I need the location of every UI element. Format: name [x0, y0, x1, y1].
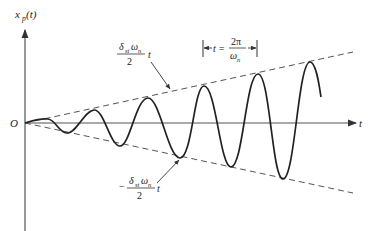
svg-text:st: st — [135, 181, 140, 188]
y-axis-label: x p (t) — [14, 8, 37, 23]
svg-text:st: st — [125, 47, 130, 54]
lower-envelope-pointer — [157, 160, 179, 183]
svg-text:2: 2 — [137, 190, 142, 201]
svg-text:n: n — [148, 181, 151, 188]
resonance-diagram: O t x p (t) δ st ω n 2 t − δ st ω n 2 t … — [0, 0, 373, 231]
origin-label: O — [10, 117, 18, 129]
svg-text:ω: ω — [131, 41, 138, 52]
svg-text:2: 2 — [127, 56, 132, 67]
svg-text:2π: 2π — [231, 36, 241, 47]
period-annotation: t = 2π ω n — [203, 36, 257, 63]
svg-text:δ: δ — [119, 41, 124, 52]
svg-text:δ: δ — [129, 175, 134, 186]
svg-text:t: t — [157, 183, 160, 194]
upper-envelope-label: δ st ω n 2 t — [117, 41, 151, 67]
svg-text:n: n — [237, 56, 240, 63]
upper-envelope-line — [25, 52, 353, 123]
svg-text:−: − — [119, 181, 125, 192]
svg-text:ω: ω — [141, 175, 148, 186]
svg-text:t: t — [148, 49, 151, 60]
t-axis-label: t — [359, 117, 363, 129]
lower-envelope-line — [25, 123, 353, 193]
response-curve — [25, 62, 321, 179]
svg-text:(t): (t) — [26, 8, 37, 21]
upper-envelope-pointer — [151, 62, 170, 89]
svg-text:t =: t = — [213, 43, 225, 54]
svg-text:x: x — [14, 8, 20, 20]
svg-text:ω: ω — [230, 50, 237, 61]
lower-envelope-label: − δ st ω n 2 t — [119, 175, 160, 201]
svg-text:n: n — [138, 47, 141, 54]
